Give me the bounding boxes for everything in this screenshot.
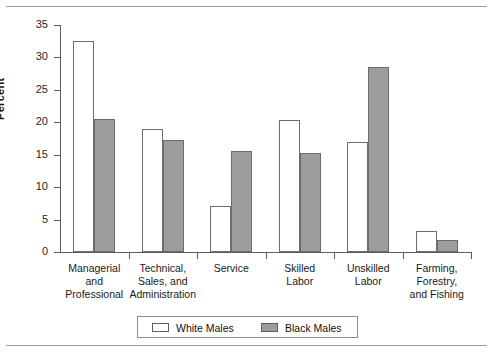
- bar-white-males: [416, 231, 437, 252]
- bar-white-males: [142, 129, 163, 252]
- bar-black-males: [94, 119, 115, 252]
- x-axis-category-label: UnskilledLabor: [329, 262, 408, 288]
- bar-white-males: [73, 41, 94, 252]
- x-axis-tick-mark: [471, 253, 472, 259]
- y-axis-tick-mark: [54, 252, 60, 253]
- y-axis-tick-label: 20: [22, 114, 48, 129]
- bottom-rule: [6, 345, 487, 346]
- y-axis-tick-label: 0: [22, 244, 48, 259]
- bar-white-males: [279, 120, 300, 252]
- bar-black-males: [437, 240, 458, 252]
- bar-black-males: [163, 140, 184, 252]
- x-axis-category-label: Technical,Sales, andAdministration: [124, 262, 203, 301]
- bar-white-males: [347, 142, 368, 252]
- chart-legend: White MalesBlack Males: [137, 316, 358, 338]
- x-axis-category-label: Farming,Forestry,and Fishing: [398, 262, 477, 301]
- legend-label: White Males: [176, 322, 234, 334]
- top-rule: [6, 6, 487, 7]
- bar-black-males: [368, 67, 389, 252]
- x-axis-category-label: SkilledLabor: [261, 262, 340, 288]
- chart-figure: Percent 05101520253035 ManagerialandProf…: [0, 0, 493, 358]
- legend-entry: Black Males: [261, 321, 342, 334]
- y-axis-tick-label: 15: [22, 147, 48, 162]
- y-axis-tick-label: 10: [22, 179, 48, 194]
- x-axis-tick-mark: [266, 253, 267, 259]
- bar-white-males: [210, 206, 231, 252]
- x-axis-tick-mark: [129, 253, 130, 259]
- legend-swatch-gray: [261, 323, 278, 332]
- y-axis-title: Percent: [0, 78, 6, 120]
- plot-area: [60, 25, 471, 252]
- bar-black-males: [300, 153, 321, 252]
- bar-black-males: [231, 151, 252, 252]
- y-axis-tick-label: 30: [22, 49, 48, 64]
- y-axis-tick-label: 5: [22, 212, 48, 227]
- x-axis-category-label: ManagerialandProfessional: [55, 262, 134, 301]
- legend-swatch-white: [152, 323, 169, 332]
- y-axis-tick-label: 35: [22, 17, 48, 32]
- x-axis-tick-mark: [403, 253, 404, 259]
- x-axis-tick-mark: [334, 253, 335, 259]
- x-axis-category-label: Service: [192, 262, 271, 275]
- y-axis-tick-label: 25: [22, 82, 48, 97]
- legend-label: Black Males: [285, 322, 342, 334]
- legend-entry: White Males: [152, 321, 234, 334]
- x-axis-tick-mark: [197, 253, 198, 259]
